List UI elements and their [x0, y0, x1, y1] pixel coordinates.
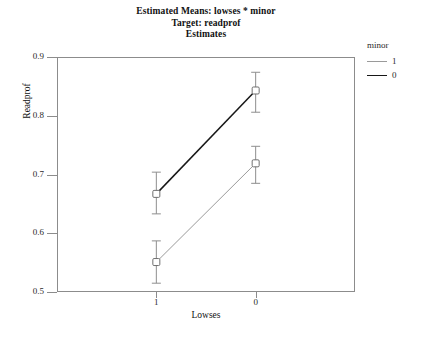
- legend-line-swatch: [367, 75, 387, 76]
- legend-title: minor: [367, 40, 422, 50]
- data-point-marker: [252, 160, 259, 167]
- estimated-means-chart: Estimated Means: lowses * minor Target: …: [0, 0, 422, 341]
- legend-item-label: 0: [392, 70, 397, 80]
- legend-item-label: 1: [392, 56, 397, 66]
- legend-rows: 10: [367, 55, 422, 81]
- legend-item-0[interactable]: 0: [367, 69, 422, 81]
- series-group-1: [152, 146, 260, 283]
- data-point-marker: [153, 190, 160, 197]
- data-point-marker: [153, 259, 160, 266]
- legend: minor 10: [367, 40, 422, 83]
- legend-line-swatch: [367, 61, 387, 62]
- series-group-0: [152, 72, 260, 214]
- legend-item-1[interactable]: 1: [367, 55, 422, 67]
- data-point-marker: [252, 87, 259, 94]
- series-layer: [0, 0, 422, 341]
